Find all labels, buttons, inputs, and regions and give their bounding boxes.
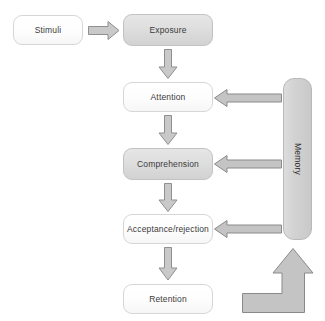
- node-exposure-label: Exposure: [149, 26, 186, 35]
- arrow-attention-to-comprehension-icon: [158, 115, 178, 145]
- node-comprehension[interactable]: Comprehension: [123, 148, 213, 180]
- arrow-stimuli-to-exposure-icon: [88, 21, 120, 40]
- node-attention[interactable]: Attention: [123, 82, 213, 112]
- arrow-retention-to-memory-icon: [242, 248, 314, 314]
- flowchart-canvas: Stimuli Exposure Attention Comprehension…: [0, 0, 325, 321]
- arrow-exposure-to-attention-icon: [158, 49, 178, 79]
- node-stimuli-label: Stimuli: [35, 26, 62, 35]
- arrow-acceptance-to-retention-icon: [158, 247, 178, 281]
- node-comprehension-label: Comprehension: [137, 160, 199, 169]
- node-stimuli[interactable]: Stimuli: [13, 15, 83, 45]
- node-memory[interactable]: Memory: [283, 78, 312, 240]
- arrow-memory-to-attention-icon: [214, 89, 282, 107]
- node-exposure[interactable]: Exposure: [123, 14, 213, 46]
- arrow-memory-to-acceptance-icon: [214, 220, 282, 238]
- arrow-memory-to-comprehension-icon: [214, 155, 282, 173]
- node-acceptance-rejection-label: Acceptance/rejection: [127, 225, 209, 234]
- node-memory-label: Memory: [293, 143, 303, 175]
- node-retention-label: Retention: [149, 295, 187, 304]
- node-attention-label: Attention: [151, 93, 186, 102]
- node-acceptance-rejection[interactable]: Acceptance/rejection: [123, 214, 213, 244]
- arrow-comprehension-to-acceptance-icon: [158, 183, 178, 212]
- node-retention[interactable]: Retention: [123, 284, 213, 314]
